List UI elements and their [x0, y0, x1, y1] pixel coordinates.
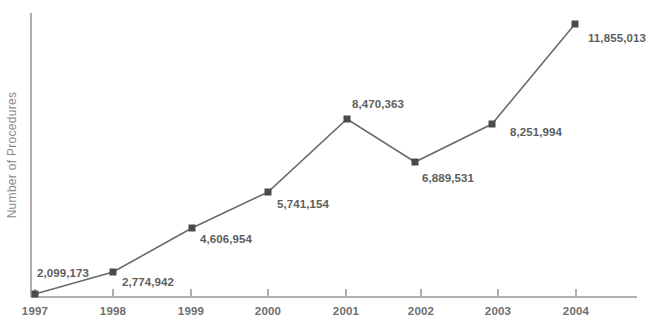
y-axis-title: Number of Procedures	[5, 92, 19, 219]
chart-canvas: 1997 1998 1999 2000 2001 2002 2003 2004 …	[0, 0, 654, 323]
x-tick-label-2000: 2000	[255, 305, 281, 317]
data-point-2001[interactable]	[344, 116, 351, 123]
x-tick-label-2003: 2003	[485, 305, 511, 317]
x-tick-label-1998: 1998	[100, 305, 127, 317]
data-value-labels: 2,099,173 2,774,942 4,606,954 5,741,154 …	[37, 32, 646, 288]
x-tick-label-1997: 1997	[22, 305, 48, 317]
data-label-1999: 4,606,954	[200, 233, 253, 245]
data-label-1997: 2,099,173	[37, 267, 89, 279]
x-tick-label-2002: 2002	[408, 305, 434, 317]
data-label-2004: 11,855,013	[588, 32, 646, 44]
data-point-2000[interactable]	[265, 189, 272, 196]
x-tick-label-1999: 1999	[178, 305, 204, 317]
x-tick-label-2001: 2001	[333, 305, 360, 317]
data-point-2003[interactable]	[489, 121, 496, 128]
x-axis-ticks	[35, 289, 576, 297]
data-point-2004[interactable]	[572, 21, 579, 28]
line-chart: 1997 1998 1999 2000 2001 2002 2003 2004 …	[0, 0, 654, 323]
x-tick-label-2004: 2004	[563, 305, 590, 317]
data-label-2003: 8,251,994	[510, 126, 563, 138]
data-point-1999[interactable]	[189, 225, 196, 232]
x-axis-tick-labels: 1997 1998 1999 2000 2001 2002 2003 2004	[22, 305, 590, 317]
data-label-2001: 8,470,363	[352, 98, 404, 110]
data-point-1997[interactable]	[32, 291, 39, 298]
data-markers	[32, 21, 579, 298]
data-label-2000: 5,741,154	[277, 198, 330, 210]
data-label-2002: 6,889,531	[422, 172, 475, 184]
data-label-1998: 2,774,942	[122, 276, 174, 288]
data-point-1998[interactable]	[110, 269, 117, 276]
data-point-2002[interactable]	[412, 159, 419, 166]
series-line-number-of-procedures	[35, 24, 575, 294]
